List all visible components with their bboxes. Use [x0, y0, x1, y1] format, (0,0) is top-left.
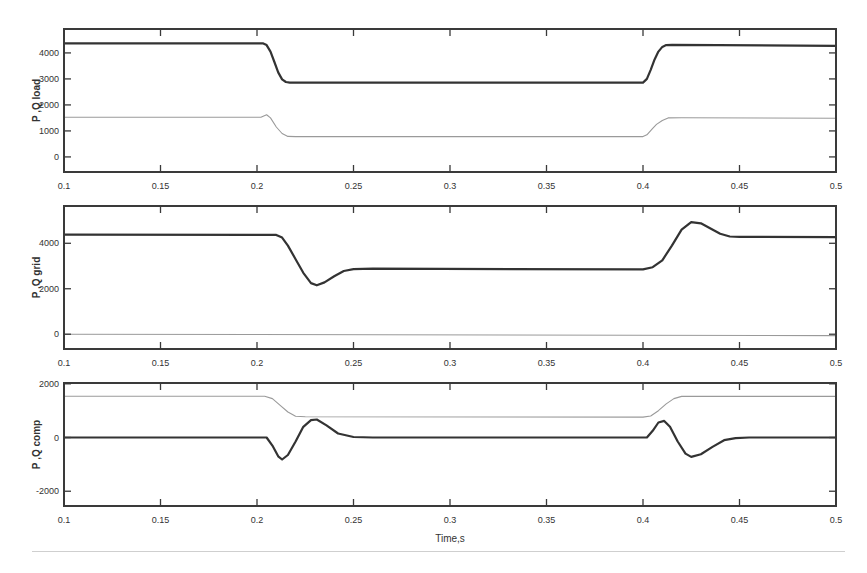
series-q-grid-line	[64, 334, 836, 335]
y-tick-label: -2000	[36, 486, 59, 496]
x-tick-label: 0.1	[58, 515, 71, 525]
x-tick-label: 0.4	[637, 181, 650, 191]
x-tick-label: 0.45	[731, 181, 749, 191]
x-tick-label: 0.5	[830, 515, 843, 525]
series-q-comp-line	[64, 396, 836, 417]
series-p-grid-line	[64, 222, 836, 285]
x-tick-label: 0.25	[345, 358, 363, 368]
y-tick-label: 0	[54, 433, 59, 443]
x-tick-label: 0.45	[731, 358, 749, 368]
axes-frame	[64, 383, 836, 506]
x-tick-label: 0.25	[345, 181, 363, 191]
x-tick-label: 0.5	[830, 181, 843, 191]
series-group	[64, 43, 836, 136]
plot-canvas: 0.10.150.20.250.30.350.40.450.5010002000…	[0, 0, 867, 573]
x-tick-label: 0.2	[251, 181, 264, 191]
x-tick-label: 0.3	[444, 515, 457, 525]
axes-frame	[64, 29, 836, 172]
series-p-load-line	[64, 43, 836, 82]
x-tick-label: 0.35	[538, 358, 556, 368]
x-tick-label: 0.2	[251, 358, 264, 368]
y-tick-label: 0	[54, 329, 59, 339]
footer-divider	[32, 551, 845, 552]
series-p-comp-line	[64, 420, 836, 460]
x-tick-label: 0.45	[731, 515, 749, 525]
subplot-grid: 0.10.150.20.250.30.350.40.450.5020004000…	[31, 206, 842, 368]
subplot-load: 0.10.150.20.250.30.350.40.450.5010002000…	[31, 29, 842, 191]
x-tick-label: 0.1	[58, 358, 71, 368]
x-tick-label: 0.5	[830, 358, 843, 368]
x-tick-label: 0.4	[637, 515, 650, 525]
x-tick-label: 0.35	[538, 181, 556, 191]
x-axis-label: Time,s	[420, 533, 480, 544]
y-tick-label: 0	[54, 152, 59, 162]
series-q-load-line	[64, 115, 836, 137]
series-group	[64, 222, 836, 336]
y-tick-label: 2000	[39, 379, 59, 389]
y-tick-label: 4000	[39, 48, 59, 58]
x-tick-label: 0.15	[152, 515, 170, 525]
x-tick-label: 0.3	[444, 181, 457, 191]
y-axis-label: P ,Q grid	[31, 257, 42, 299]
subplot-comp: 0.10.150.20.250.30.350.40.450.5-20000200…	[31, 379, 842, 525]
x-tick-label: 0.15	[152, 181, 170, 191]
x-tick-label: 0.1	[58, 181, 71, 191]
series-group	[64, 396, 836, 459]
y-axis-label: P ,Q load	[31, 79, 42, 122]
x-tick-label: 0.4	[637, 358, 650, 368]
axes-frame	[64, 206, 836, 349]
figure: 0.10.150.20.250.30.350.40.450.5010002000…	[0, 0, 867, 573]
x-tick-label: 0.2	[251, 515, 264, 525]
y-axis-label: P ,Q comp	[31, 420, 42, 469]
y-tick-label: 1000	[39, 126, 59, 136]
x-tick-label: 0.3	[444, 358, 457, 368]
x-tick-label: 0.35	[538, 515, 556, 525]
x-tick-label: 0.15	[152, 358, 170, 368]
x-tick-label: 0.25	[345, 515, 363, 525]
y-tick-label: 4000	[39, 238, 59, 248]
